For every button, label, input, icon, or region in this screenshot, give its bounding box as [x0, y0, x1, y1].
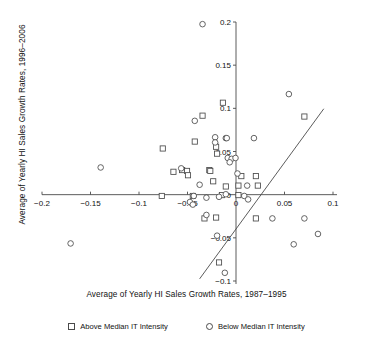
- data-point-square: [200, 113, 205, 118]
- data-point-square: [159, 193, 164, 198]
- data-point-circle: [214, 233, 220, 239]
- data-point-square: [208, 168, 213, 173]
- y-tick-label: 0.2: [220, 18, 232, 27]
- x-tick-label: −0.15: [80, 199, 101, 208]
- data-point-square: [223, 184, 228, 189]
- data-point-square: [185, 173, 190, 178]
- circle-marker-icon: [206, 323, 213, 330]
- x-tick-label: 0.05: [277, 199, 293, 208]
- y-tick-label: −0.1: [215, 277, 231, 286]
- data-point-square: [220, 100, 225, 105]
- data-point-square: [302, 114, 307, 119]
- x-tick-label: −0.2: [34, 199, 50, 208]
- data-point-circle: [222, 270, 228, 276]
- y-tick-label: −0.05: [211, 234, 232, 243]
- data-point-circle: [204, 195, 210, 201]
- data-point-circle: [197, 182, 203, 188]
- data-point-circle: [216, 194, 222, 200]
- data-point-circle: [212, 140, 218, 146]
- legend-label-below-median: Below Median IT Intensity: [218, 322, 305, 331]
- x-axis-title: Average of Yearly HI Sales Growth Rates,…: [0, 290, 373, 299]
- legend-item-below-median: Below Median IT Intensity: [206, 322, 305, 331]
- data-point-circle: [223, 191, 229, 197]
- square-marker-icon: [68, 323, 75, 330]
- data-point-circle: [191, 193, 197, 199]
- data-point-square: [192, 139, 197, 144]
- x-tick-label: 0.1: [327, 199, 339, 208]
- scatter-plot-figure: −0.2−0.15−0.1−0.0500.050.1 −0.1−0.0500.0…: [0, 0, 373, 346]
- data-point-square: [236, 193, 241, 198]
- data-point-square: [214, 215, 219, 220]
- legend-item-above-median: Above Median IT Intensity: [68, 322, 168, 331]
- data-point-circle: [302, 216, 308, 222]
- data-point-circle: [245, 197, 251, 203]
- data-point-circle: [315, 231, 321, 237]
- y-axis-title: Average of Yearly HI Sales Growth Rates,…: [18, 15, 27, 235]
- data-point-square: [160, 146, 165, 151]
- chart-legend: Above Median IT Intensity Below Median I…: [0, 322, 373, 331]
- data-point-circle: [251, 135, 257, 141]
- data-point-square: [211, 179, 216, 184]
- data-point-square: [253, 216, 258, 221]
- series-below-median-it-intensity-points: [68, 21, 321, 275]
- data-point-circle: [178, 166, 184, 172]
- data-point-circle: [270, 216, 276, 222]
- series-above-median-it-intensity-points: [159, 100, 307, 265]
- data-point-circle: [192, 118, 198, 124]
- data-point-circle: [190, 202, 196, 208]
- data-point-circle: [98, 165, 104, 171]
- x-axis: −0.2−0.15−0.1−0.0500.050.1: [34, 192, 339, 208]
- data-point-circle: [286, 91, 292, 97]
- data-point-circle: [200, 21, 206, 27]
- data-point-circle: [291, 242, 297, 248]
- data-point-square: [253, 174, 258, 179]
- data-point-square: [171, 169, 176, 174]
- data-point-circle: [233, 155, 239, 161]
- data-point-circle: [244, 183, 250, 189]
- data-point-circle: [68, 241, 74, 247]
- data-point-square: [214, 151, 219, 156]
- data-point-square: [255, 183, 260, 188]
- data-point-square: [236, 183, 241, 188]
- data-point-circle: [235, 171, 241, 177]
- legend-label-above-median: Above Median IT Intensity: [80, 322, 168, 331]
- data-point-circle: [227, 159, 233, 165]
- x-tick-label: −0.1: [131, 199, 147, 208]
- y-tick-label: 0.15: [215, 61, 231, 70]
- data-point-circle: [224, 135, 230, 141]
- data-point-circle: [204, 212, 210, 218]
- data-point-square: [216, 260, 221, 265]
